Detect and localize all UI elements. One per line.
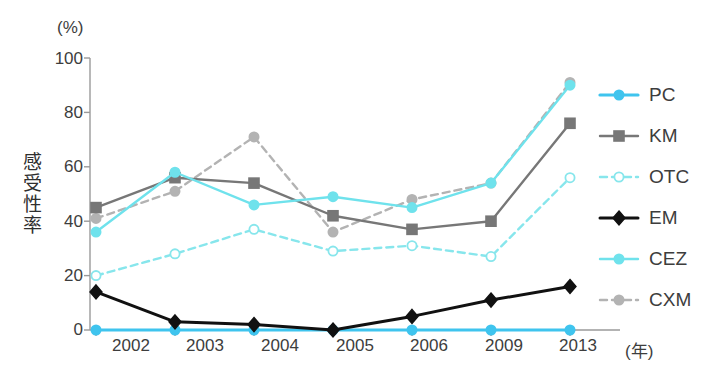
legend-swatch-cxm: [598, 291, 640, 309]
chart-container: (%) 感 受 性 率 100 80 60 40 20 0 2002 2003 …: [0, 0, 724, 383]
data-point-cxm-2003: [170, 187, 179, 196]
data-point-km-2004: [249, 178, 259, 188]
legend-swatch-em: [598, 209, 640, 227]
chart-legend: PC KM OTC EM CEZ CXM: [598, 74, 720, 320]
data-point-cxm-2002: [91, 214, 100, 223]
data-point-km-2002: [91, 203, 101, 213]
legend-swatch-cez: [598, 250, 640, 268]
axis-lines: [84, 58, 620, 336]
legend-swatch-otc: [598, 168, 640, 186]
data-point-otc-2006: [407, 241, 416, 250]
data-point-pc-2002: [91, 325, 100, 334]
data-point-cez-2002: [91, 227, 100, 236]
data-point-pc-2013: [565, 325, 574, 334]
data-point-em-2005: [327, 323, 339, 337]
data-point-km-2013: [565, 118, 575, 128]
legend-label-cez: CEZ: [649, 249, 687, 268]
series-km: [91, 118, 575, 234]
data-point-em-2002: [90, 285, 102, 299]
data-point-pc-2006: [407, 325, 416, 334]
data-point-pc-2009: [486, 325, 495, 334]
data-point-em-2009: [485, 293, 497, 307]
data-series-layer: [90, 78, 576, 337]
legend-item-km[interactable]: KM: [598, 115, 720, 156]
data-point-cez-2003: [170, 168, 179, 177]
legend-item-cxm[interactable]: CXM: [598, 279, 720, 320]
legend-label-cxm: CXM: [649, 290, 691, 309]
legend-item-pc[interactable]: PC: [598, 74, 720, 115]
legend-label-km: KM: [649, 126, 678, 145]
data-point-km-2009: [486, 216, 496, 226]
legend-label-em: EM: [649, 208, 678, 227]
data-point-otc-2009: [486, 252, 495, 261]
data-point-cez-2004: [249, 200, 258, 209]
data-point-otc-2002: [91, 271, 100, 280]
data-point-cez-2013: [565, 81, 574, 90]
data-point-cxm-2005: [328, 227, 337, 236]
data-point-km-2005: [328, 211, 338, 221]
data-point-otc-2004: [249, 225, 258, 234]
data-point-em-2013: [564, 279, 576, 293]
data-point-cxm-2004: [249, 132, 258, 141]
data-point-cez-2005: [328, 192, 337, 201]
data-point-otc-2003: [170, 249, 179, 258]
data-point-otc-2005: [328, 247, 337, 256]
data-point-em-2006: [406, 309, 418, 323]
legend-swatch-km: [598, 127, 640, 145]
data-point-km-2006: [407, 224, 417, 234]
legend-label-pc: PC: [649, 85, 675, 104]
legend-item-cez[interactable]: CEZ: [598, 238, 720, 279]
legend-label-otc: OTC: [649, 167, 689, 186]
data-point-cez-2006: [407, 203, 416, 212]
legend-item-otc[interactable]: OTC: [598, 156, 720, 197]
data-point-otc-2013: [565, 173, 574, 182]
legend-swatch-pc: [598, 86, 640, 104]
legend-item-em[interactable]: EM: [598, 197, 720, 238]
series-em: [90, 279, 576, 337]
data-point-cez-2009: [486, 179, 495, 188]
